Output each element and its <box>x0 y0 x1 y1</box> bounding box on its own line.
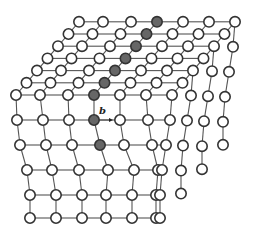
lattice-atom <box>167 90 177 100</box>
lattice-atom <box>224 67 234 77</box>
lattice-atom <box>126 17 136 27</box>
lattice-atom <box>77 190 87 200</box>
lattice-atom <box>228 42 238 52</box>
arrowhead-icon <box>109 118 113 122</box>
lattice-atom <box>197 141 207 151</box>
lattice-atom <box>199 116 209 126</box>
lattice-atom <box>47 165 57 175</box>
lattice-atom <box>66 53 76 63</box>
lattice-atom <box>115 29 125 39</box>
lattice-atom <box>127 190 137 200</box>
lattice-diagram: b <box>0 0 255 236</box>
lattice-atom <box>101 213 111 223</box>
lattice-atom <box>74 17 84 27</box>
lattice-atom <box>22 165 32 175</box>
lattice-atom <box>230 17 240 27</box>
lattice-atom <box>127 213 137 223</box>
lattice-atom <box>178 140 188 150</box>
lattice-atom <box>77 213 87 223</box>
burgers-vector-label: b <box>99 105 106 116</box>
lattice-atom <box>209 41 219 51</box>
lattice-atom <box>125 78 135 88</box>
lattice-atom <box>146 53 156 63</box>
lattice-atom <box>198 53 208 63</box>
dislocation-atom <box>89 115 99 125</box>
lattice-atom <box>32 65 42 75</box>
lattice-atom <box>25 213 35 223</box>
lattice-atom <box>193 29 203 39</box>
lattice-atom <box>204 17 214 27</box>
lattice-atom <box>186 90 196 100</box>
lattice-atom <box>218 140 228 150</box>
lattice-atom <box>203 91 213 101</box>
lattice-atom <box>41 140 51 150</box>
lattice-atom <box>74 165 84 175</box>
lattice-atom <box>53 41 63 51</box>
lattice-atom <box>73 78 83 88</box>
lattice-atom <box>129 165 139 175</box>
lattice-atom <box>155 213 165 223</box>
lattice-atom <box>67 140 77 150</box>
dislocation-atom <box>141 29 151 39</box>
lattice-atom <box>165 115 175 125</box>
lattice-atom <box>35 90 45 100</box>
lattice-atom <box>98 17 108 27</box>
lattice-atom <box>157 41 167 51</box>
lattice-atom <box>151 78 161 88</box>
lattice-atom <box>115 115 125 125</box>
lattice-atom <box>162 65 172 75</box>
lattice-atom <box>197 164 207 174</box>
dislocation-atom <box>110 65 120 75</box>
lattice-atom <box>147 140 157 150</box>
lattice-atom <box>11 90 21 100</box>
lattice-atom <box>94 53 104 63</box>
lattice-atoms <box>11 17 240 224</box>
lattice-atom <box>161 140 171 150</box>
lattice-atom <box>183 41 193 51</box>
lattice-atom <box>105 41 115 51</box>
dislocation-atom <box>89 90 99 100</box>
lattice-atom <box>188 65 198 75</box>
lattice-atom <box>87 29 97 39</box>
lattice-atom <box>15 140 25 150</box>
lattice-atom <box>101 190 111 200</box>
lattice-atom <box>21 78 31 88</box>
lattice-atom <box>136 65 146 75</box>
lattice-atom <box>25 190 35 200</box>
lattice-atom <box>176 165 186 175</box>
lattice-atom <box>157 165 167 175</box>
lattice-atom <box>220 92 230 102</box>
lattice-atom <box>176 188 186 198</box>
lattice-atom <box>38 115 48 125</box>
lattice-atom <box>103 165 113 175</box>
lattice-atom <box>178 17 188 27</box>
lattice-atom <box>207 66 217 76</box>
lattice-atom <box>177 78 187 88</box>
lattice-atom <box>219 29 229 39</box>
lattice-atom <box>42 53 52 63</box>
lattice-atom <box>51 190 61 200</box>
lattice-atom <box>172 53 182 63</box>
lattice-atom <box>115 90 125 100</box>
lattice-atom <box>141 90 151 100</box>
dislocation-atom <box>131 41 141 51</box>
lattice-atom <box>56 65 66 75</box>
lattice-atom <box>143 115 153 125</box>
lattice-atom <box>167 29 177 39</box>
dislocation-atom <box>120 53 130 63</box>
lattice-atom <box>84 65 94 75</box>
lattice-atom <box>182 115 192 125</box>
burgers-vector: b <box>99 105 113 122</box>
dislocation-atom <box>99 78 109 88</box>
lattice-atom <box>51 213 61 223</box>
lattice-atom <box>64 115 74 125</box>
dislocation-atom <box>152 17 162 27</box>
lattice-atom <box>77 41 87 51</box>
lattice-atom <box>63 90 73 100</box>
lattice-atom <box>63 29 73 39</box>
crystal-lattice-svg: b <box>0 0 255 236</box>
lattice-atom <box>119 140 129 150</box>
lattice-atom <box>218 117 228 127</box>
lattice-atom <box>12 115 22 125</box>
lattice-atom <box>155 190 165 200</box>
